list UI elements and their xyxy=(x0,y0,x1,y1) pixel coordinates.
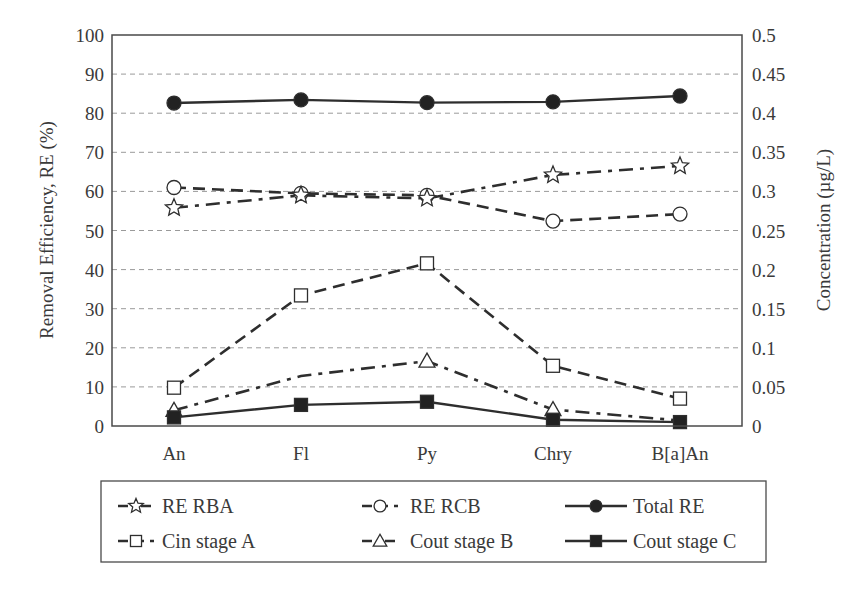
right-tick-label: 0.35 xyxy=(752,142,785,163)
series-cin-stage-a xyxy=(168,257,687,405)
legend-item-cout-stage-b: Cout stage B xyxy=(362,530,513,553)
filled-circle-marker-icon xyxy=(420,96,434,110)
series-cout-stage-c xyxy=(168,395,687,428)
circle-marker-icon xyxy=(673,207,687,221)
star-marker-icon xyxy=(129,498,144,512)
x-tick-label: An xyxy=(162,443,186,464)
data-series xyxy=(165,89,688,429)
legend-item-re-rba: RE RBA xyxy=(118,495,234,517)
filled-circle-marker-icon xyxy=(294,93,308,107)
right-axis-title: Concentration (µg/L) xyxy=(813,149,835,311)
right-tick-label: 0 xyxy=(752,416,762,437)
left-tick-label: 80 xyxy=(85,103,104,124)
left-tick-label: 100 xyxy=(76,25,105,46)
legend-label: Cout stage B xyxy=(410,530,513,553)
legend-label: RE RBA xyxy=(162,495,234,517)
star-marker-icon xyxy=(165,199,182,215)
filled-square-marker-icon xyxy=(421,395,434,408)
left-tick-label: 0 xyxy=(95,416,105,437)
triangle-marker-icon xyxy=(373,534,387,546)
right-tick-label: 0.15 xyxy=(752,299,785,320)
filled-circle-marker-icon xyxy=(167,96,181,110)
square-marker-icon xyxy=(674,392,687,405)
circle-marker-icon xyxy=(546,214,560,228)
left-tick-label: 10 xyxy=(85,377,104,398)
x-tick-label: Py xyxy=(417,443,438,464)
legend-item-cin-stage-a: Cin stage A xyxy=(118,530,256,553)
x-tick-label: Fl xyxy=(293,443,309,464)
circle-marker-icon xyxy=(167,180,181,194)
triangle-marker-icon xyxy=(419,353,435,367)
left-tick-label: 60 xyxy=(85,181,104,202)
chart-canvas: 0102030405060708090100 00.050.10.150.20.… xyxy=(0,0,855,590)
left-tick-label: 20 xyxy=(85,338,104,359)
right-tick-label: 0.1 xyxy=(752,338,776,359)
x-tick-label: B[a]An xyxy=(652,443,709,464)
legend-label: Cin stage A xyxy=(162,530,256,553)
right-tick-label: 0.25 xyxy=(752,221,785,242)
square-marker-icon xyxy=(130,535,141,546)
legend: RE RBARE RCBTotal RECin stage ACout stag… xyxy=(101,481,766,562)
legend-label: Total RE xyxy=(633,495,704,517)
legend-item-re-rcb: RE RCB xyxy=(362,495,481,517)
right-tick-label: 0.5 xyxy=(752,25,776,46)
gridlines xyxy=(112,74,742,387)
x-axis-ticks: AnFlPyChryB[a]An xyxy=(162,443,709,464)
right-axis-ticks: 00.050.10.150.20.250.30.350.40.450.5 xyxy=(752,25,785,437)
left-tick-label: 30 xyxy=(85,299,104,320)
series-re-rcb xyxy=(167,180,687,228)
star-marker-icon xyxy=(544,166,561,182)
filled-circle-marker-icon xyxy=(673,89,687,103)
left-tick-label: 70 xyxy=(85,142,104,163)
right-tick-label: 0.3 xyxy=(752,181,776,202)
square-marker-icon xyxy=(168,381,181,394)
series-total-re xyxy=(167,89,687,110)
filled-circle-marker-icon xyxy=(546,95,560,109)
filled-circle-marker-icon xyxy=(590,500,602,512)
legend-item-cout-stage-c: Cout stage C xyxy=(565,530,736,553)
square-marker-icon xyxy=(295,289,308,302)
left-axis-title: Removal Efficiency, RE (%) xyxy=(36,121,58,339)
series-line xyxy=(174,361,680,420)
legend-item-total-re: Total RE xyxy=(565,495,704,517)
left-axis-ticks: 0102030405060708090100 xyxy=(76,25,105,437)
square-marker-icon xyxy=(421,257,434,270)
circle-marker-icon xyxy=(374,500,386,512)
left-tick-label: 90 xyxy=(85,64,104,85)
right-tick-label: 0.05 xyxy=(752,377,785,398)
square-marker-icon xyxy=(547,359,560,372)
filled-square-marker-icon xyxy=(295,398,308,411)
right-tick-label: 0.45 xyxy=(752,64,785,85)
series-re-rba xyxy=(165,157,688,215)
filled-square-marker-icon xyxy=(547,413,560,426)
right-tick-label: 0.4 xyxy=(752,103,776,124)
legend-label: RE RCB xyxy=(410,495,481,517)
filled-square-marker-icon xyxy=(590,535,601,546)
filled-square-marker-icon xyxy=(168,411,181,424)
left-tick-label: 50 xyxy=(85,221,104,242)
left-tick-label: 40 xyxy=(85,260,104,281)
right-tick-label: 0.2 xyxy=(752,260,776,281)
legend-label: Cout stage C xyxy=(633,530,736,553)
x-tick-label: Chry xyxy=(534,443,573,464)
star-marker-icon xyxy=(671,157,688,173)
series-line xyxy=(174,263,680,398)
